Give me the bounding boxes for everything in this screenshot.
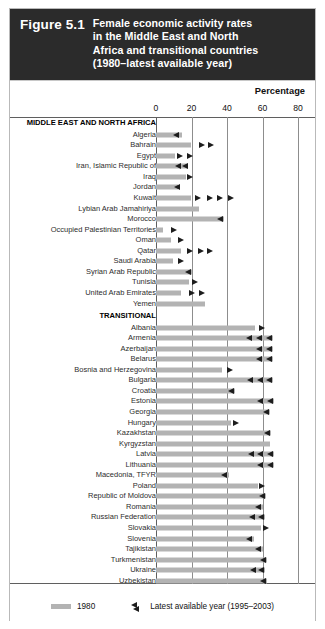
marker-latest-year [246,536,252,542]
country-label: Algeria [133,131,156,139]
marker-latest-year [228,388,234,394]
marker-latest-year [250,567,256,573]
marker-latest-year [258,567,264,573]
marker-latest-year [256,335,262,341]
chart-row: Bulgaria [10,375,315,386]
x-axis-tick-label: 80 [293,103,303,113]
country-label: Yemen [133,300,156,308]
country-label: Egypt [137,152,156,160]
marker-latest-year [260,578,266,584]
country-label: Bulgaria [128,377,156,385]
chart-row: Romania [10,502,315,513]
marker-latest-year [266,346,272,352]
chart-row: Turkmenistan [10,554,315,565]
bar-1980 [156,431,271,436]
marker-latest-year [174,184,180,190]
country-label: Syrian Arab Republic [86,268,156,276]
bar-1980 [156,301,205,306]
figure-container: Figure 5.1 Female economic activity rate… [0,0,325,629]
marker-latest-year [187,153,193,159]
marker-latest-year [247,377,253,383]
legend-label-1980: 1980 [77,602,95,611]
marker-latest-year [198,248,204,254]
bar-1980 [156,227,163,232]
country-label: Uzbekistan [119,577,156,585]
marker-latest-year [257,462,263,468]
bar-1980 [156,378,273,383]
marker-latest-year [267,451,273,457]
marker-latest-year [185,269,191,275]
chart-card: Percentage 020406080 MIDDLE EAST AND NOR… [10,80,315,626]
chart-rows: MIDDLE EAST AND NORTH AFRICAAlgeriaBahra… [10,117,315,584]
bar-1980 [156,174,186,179]
country-label: Georgia [129,408,156,416]
marker-latest-year [175,163,181,169]
marker-latest-year [199,290,205,296]
chart-row: Albania [10,322,315,333]
country-label: Ukraine [130,566,156,574]
bar-1980 [156,441,270,446]
marker-latest-year [178,237,184,243]
marker-latest-year [217,216,223,222]
bar-1980 [156,557,267,562]
country-label: Kuwait [133,194,156,202]
x-axis-tick-label: 60 [258,103,268,113]
bar-1980 [156,217,224,222]
marker-latest-year [178,258,184,264]
figure-frame: Figure 5.1 Female economic activity rate… [9,8,316,621]
marker-latest-year [266,335,272,341]
country-label: Armenia [128,334,156,342]
group-label: TRANSITIONAL [99,312,156,320]
marker-latest-year [264,430,270,436]
marker-latest-year [221,472,227,478]
chart-row: Ukraine [10,565,315,576]
country-label: Kyrgyzstan [119,440,156,448]
figure-title-line-4: (1980–latest available year) [93,57,259,70]
bar-1980 [156,473,229,478]
country-label: Occupied Palestinian Territories [51,226,156,234]
bar-1980 [156,143,191,148]
chart-row: Croatia [10,386,315,397]
chart-row: Saudi Arabia [10,256,315,267]
marker-latest-year [173,132,179,138]
chart-row: Iraq [10,172,315,183]
marker-latest-year [258,514,264,520]
chart-row: Armenia [10,333,315,344]
country-label: Slovakia [128,524,156,532]
country-label: Bosnia and Herzegovina [74,366,156,374]
marker-latest-year [263,525,269,531]
country-label: Belarus [131,355,156,363]
chart-row: Estonia [10,396,315,407]
chart-row: Republic of Moldova [10,491,315,502]
figure-title-line-1: Female economic activity rates [93,17,259,30]
country-label: Latvia [136,450,156,458]
marker-latest-year [249,514,255,520]
bar-1980 [156,483,258,488]
marker-latest-year [227,367,233,373]
country-label: Lybian Arab Jamahiriya [78,205,156,213]
country-label: Lithuania [126,461,156,469]
marker-latest-year [259,493,265,499]
chart-row: Morocco [10,214,315,225]
marker-latest-year [187,174,193,180]
country-label: Croatia [132,387,156,395]
legend-item-1980: 1980 [51,602,95,611]
x-axis-tick-label: 40 [222,103,232,113]
bar-1980 [156,536,254,541]
marker-latest-year [246,335,252,341]
chart-row: Qatar [10,246,315,257]
chart-row: Lybian Arab Jamahiriya [10,203,315,214]
plot-area: 020406080 MIDDLE EAST AND NORTH AFRICAAl… [10,103,315,626]
grid-area: MIDDLE EAST AND NORTH AFRICAAlgeriaBahra… [10,117,315,584]
bar-1980 [156,420,231,425]
marker-latest-year [182,163,188,169]
country-label: Macedonia, TFYR [96,472,156,480]
marker-latest-year [189,290,195,296]
marker-latest-year [266,356,272,362]
country-label: Iraq [143,173,156,181]
bar-1980 [156,568,265,573]
marker-latest-year [263,409,269,415]
bar-1980 [156,388,235,393]
chart-row: Kazakhstan [10,428,315,439]
country-label: Estonia [131,398,156,406]
